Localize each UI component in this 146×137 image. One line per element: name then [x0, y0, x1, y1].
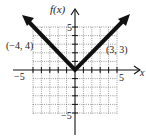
graph: f(x) x −5 5 5 −5 (−4, 4) (3, 3): [0, 0, 146, 137]
point-3-3: [99, 43, 102, 46]
point-neg4-4: [40, 34, 43, 37]
point-label-neg4-4: (−4, 4): [6, 40, 33, 52]
y-tick-neg5: −5: [61, 110, 72, 121]
y-tick-pos5: 5: [67, 22, 72, 33]
x-axis-label: x: [139, 67, 145, 78]
y-axis-label: f(x): [50, 3, 66, 16]
x-tick-neg5: −5: [14, 71, 25, 82]
point-label-3-3: (3, 3): [106, 44, 128, 56]
x-tick-pos5: 5: [119, 72, 124, 83]
